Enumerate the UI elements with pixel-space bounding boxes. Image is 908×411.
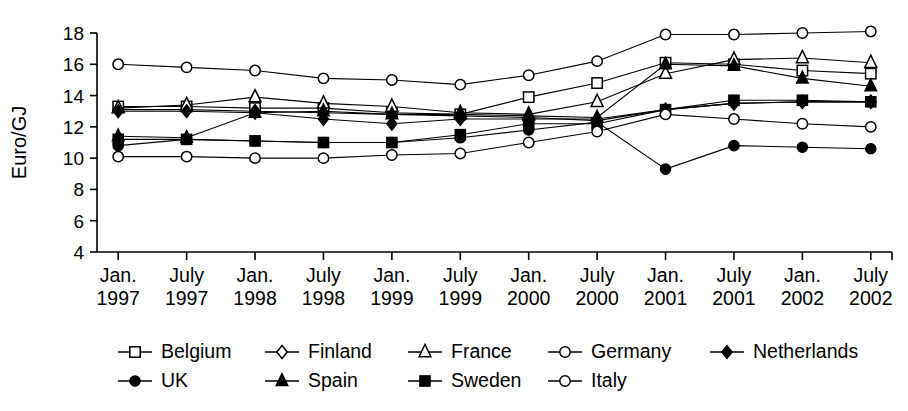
open-circle-marker: [660, 29, 670, 39]
open-circle-marker: [387, 150, 397, 160]
open-circle-marker: [524, 70, 534, 80]
open-circle-marker: [560, 376, 570, 386]
legend-label: Sweden: [451, 369, 521, 391]
open-circle-marker: [113, 151, 123, 161]
y-axis-label: Euro/GJ: [8, 106, 30, 179]
filled-square-marker: [729, 95, 739, 105]
open-triangle-marker: [249, 90, 261, 102]
y-tick-label: 10: [63, 148, 84, 169]
open-circle-marker: [250, 153, 260, 163]
open-circle-marker: [387, 75, 397, 85]
series-uk: [113, 117, 876, 174]
y-tick-label: 6: [73, 211, 84, 232]
x-tick-label-year: 1999: [439, 287, 482, 309]
x-tick-label-year: 2002: [849, 287, 892, 309]
y-tick-label: 8: [73, 179, 84, 200]
x-tick-label-month: July: [306, 264, 341, 286]
x-tick-label-year: 2000: [575, 287, 619, 309]
filled-circle-marker: [797, 142, 807, 152]
open-diamond-marker: [277, 346, 287, 359]
x-tick-label-year: 2001: [644, 287, 687, 309]
legend-label: Finland: [308, 340, 372, 362]
x-tick-label-year: 1998: [233, 287, 276, 309]
open-circle-marker: [729, 29, 739, 39]
y-axis-ticks: 4681012141618: [63, 23, 97, 263]
x-tick-label-month: July: [717, 264, 752, 286]
x-tick-label-year: 1998: [302, 287, 345, 309]
open-circle-marker: [592, 126, 602, 136]
legend-item-france[interactable]: France: [408, 340, 512, 362]
open-circle-marker: [455, 148, 465, 158]
filled-square-marker: [524, 119, 534, 129]
open-circle-marker: [181, 62, 191, 72]
filled-square-marker: [387, 137, 397, 147]
y-tick-label: 18: [63, 23, 84, 44]
filled-square-marker: [113, 134, 123, 144]
open-circle-marker: [866, 26, 876, 36]
filled-square-marker: [318, 137, 328, 147]
open-circle-marker: [181, 151, 191, 161]
open-circle-marker: [113, 59, 123, 69]
open-circle-marker: [592, 56, 602, 66]
filled-triangle-marker: [865, 79, 877, 91]
legend-item-italy[interactable]: Italy: [548, 369, 627, 391]
open-circle-marker: [560, 347, 570, 357]
series-line-italy: [118, 114, 871, 158]
legend-item-germany[interactable]: Germany: [548, 340, 671, 362]
open-circle-marker: [524, 137, 534, 147]
open-square-marker: [130, 347, 140, 357]
open-circle-marker: [318, 153, 328, 163]
legend-item-netherlands[interactable]: Netherlands: [710, 340, 858, 362]
filled-square-marker: [181, 134, 191, 144]
y-tick-label: 16: [63, 54, 84, 75]
legend-item-uk[interactable]: UK: [118, 369, 188, 391]
filled-diamond-marker: [722, 346, 732, 359]
x-tick-label-year: 2000: [507, 287, 551, 309]
x-tick-label-year: 2002: [781, 287, 824, 309]
open-circle-marker: [797, 119, 807, 129]
x-axis-ticks: Jan.1997July1997Jan.1998July1998Jan.1999…: [97, 252, 893, 309]
series-germany: [113, 26, 876, 90]
legend-label: Belgium: [161, 340, 231, 362]
series-line-finland: [118, 102, 871, 121]
open-circle-marker: [729, 114, 739, 124]
x-tick-label-month: Jan.: [647, 264, 684, 286]
open-triangle-marker: [796, 50, 808, 62]
open-square-marker: [592, 78, 602, 88]
x-tick-label-month: July: [853, 264, 888, 286]
legend-label: Italy: [591, 369, 627, 391]
x-tick-label-year: 1997: [165, 287, 208, 309]
open-square-marker: [524, 92, 534, 102]
x-tick-label-month: Jan.: [784, 264, 821, 286]
x-tick-label-month: July: [580, 264, 615, 286]
x-tick-label-month: Jan.: [237, 264, 274, 286]
legend-label: Netherlands: [753, 340, 858, 362]
x-tick-label-year: 1999: [370, 287, 413, 309]
x-tick-label-month: Jan.: [510, 264, 547, 286]
legend-item-finland[interactable]: Finland: [265, 340, 372, 362]
x-tick-label-month: Jan.: [373, 264, 410, 286]
y-tick-label: 14: [63, 86, 85, 107]
legend: BelgiumFinlandFranceGermanyNetherlandsUK…: [118, 340, 858, 391]
open-circle-marker: [318, 73, 328, 83]
legend-item-spain[interactable]: Spain: [265, 369, 358, 391]
y-tick-label: 4: [73, 242, 84, 263]
filled-square-marker: [797, 95, 807, 105]
series-line-germany: [118, 31, 871, 84]
x-tick-label-month: July: [443, 264, 478, 286]
filled-circle-marker: [866, 144, 876, 154]
open-circle-marker: [797, 28, 807, 38]
open-triangle-marker: [419, 344, 431, 356]
legend-item-sweden[interactable]: Sweden: [408, 369, 521, 391]
filled-square-marker: [866, 97, 876, 107]
legend-item-belgium[interactable]: Belgium: [118, 340, 231, 362]
series-italy: [113, 109, 876, 163]
filled-square-marker: [250, 136, 260, 146]
filled-circle-marker: [729, 140, 739, 150]
legend-label: Spain: [308, 369, 358, 391]
filled-square-marker: [455, 129, 465, 139]
filled-circle-marker: [660, 164, 670, 174]
x-tick-label-year: 1997: [97, 287, 140, 309]
chart-figure: 4681012141618Euro/GJJan.1997July1997Jan.…: [0, 0, 908, 411]
filled-triangle-marker: [276, 373, 288, 385]
